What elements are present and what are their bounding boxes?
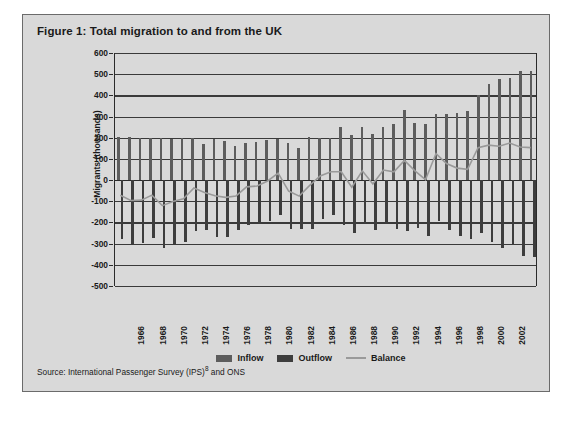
y-tick-label--400: -400 (91, 260, 108, 270)
x-tick-label-1984: 1984 (327, 326, 337, 345)
balance-line-icon (346, 357, 366, 359)
y-tick-label-400: 400 (94, 90, 108, 100)
y-tick-mark--500 (109, 286, 113, 287)
x-tick-label-1986: 1986 (348, 326, 358, 345)
y-tick-label-0: 0 (103, 175, 108, 185)
y-tick-mark--200 (109, 222, 113, 223)
y-tick-mark-500 (109, 74, 113, 75)
y-axis-tick-labels: 6005004003002001000-100-200-300-400-500 (85, 53, 112, 286)
x-tick-label-2000: 2000 (496, 326, 506, 345)
legend-label-balance: Balance (371, 353, 406, 363)
plot-area (114, 53, 537, 286)
y-tick-label-500: 500 (94, 69, 108, 79)
x-tick-label-1998: 1998 (475, 326, 485, 345)
x-tick-label-1976: 1976 (242, 326, 252, 345)
x-tick-label-1996: 1996 (454, 326, 464, 345)
outflow-swatch-icon (277, 355, 293, 362)
y-tick-label--200: -200 (91, 217, 108, 227)
balance-line (120, 143, 530, 206)
x-tick-label-1994: 1994 (433, 326, 443, 345)
x-tick-label-1970: 1970 (179, 326, 189, 345)
y-tick-mark-300 (109, 117, 113, 118)
y-tick-label--500: -500 (91, 281, 108, 291)
chart-legend: Inflow Outflow Balance (85, 353, 537, 363)
y-tick-mark--100 (109, 201, 113, 202)
x-tick-label-1966: 1966 (136, 326, 146, 345)
x-tick-label-1972: 1972 (200, 326, 210, 345)
inflow-swatch-icon (216, 355, 232, 362)
x-tick-label-1988: 1988 (369, 326, 379, 345)
x-tick-label-2002: 2002 (517, 326, 527, 345)
y-tick-mark-600 (109, 53, 113, 54)
y-tick-label-300: 300 (94, 112, 108, 122)
x-tick-label-1980: 1980 (284, 326, 294, 345)
x-axis-tick-labels: 1966196819701972197419761978198019821984… (114, 289, 537, 345)
legend-label-inflow: Inflow (237, 353, 263, 363)
x-tick-label-1992: 1992 (411, 326, 421, 345)
y-tick-mark-100 (109, 159, 113, 160)
y-tick-mark--300 (109, 244, 113, 245)
x-tick-label-1982: 1982 (306, 326, 316, 345)
y-tick-mark--400 (109, 265, 113, 266)
legend-item-outflow: Outflow (277, 353, 332, 363)
y-tick-label-200: 200 (94, 133, 108, 143)
source-text: Source: International Passenger Survey (… (37, 367, 205, 377)
y-tick-label--300: -300 (91, 239, 108, 249)
source-note: Source: International Passenger Survey (… (37, 365, 245, 377)
figure-title: Figure 1: Total migration to and from th… (37, 25, 282, 37)
legend-label-outflow: Outflow (298, 353, 332, 363)
y-tick-label-100: 100 (94, 154, 108, 164)
x-tick-label-1974: 1974 (221, 326, 231, 345)
figure-frame: Figure 1: Total migration to and from th… (22, 14, 550, 392)
x-tick-label-1978: 1978 (263, 326, 273, 345)
y-tick-mark-200 (109, 138, 113, 139)
y-tick-label-600: 600 (94, 48, 108, 58)
y-tick-label--100: -100 (91, 196, 108, 206)
x-tick-label-1990: 1990 (390, 326, 400, 345)
balance-line-layer (115, 53, 536, 285)
source-text-tail: and ONS (209, 367, 245, 377)
y-tick-mark-0 (109, 180, 113, 181)
x-tick-label-1968: 1968 (158, 326, 168, 345)
y-tick-mark-400 (109, 95, 113, 96)
chart-plot: Migrants (thousands) 6005004003002001000… (85, 53, 537, 353)
legend-item-inflow: Inflow (216, 353, 263, 363)
gridline--500 (115, 286, 536, 287)
legend-item-balance: Balance (346, 353, 406, 363)
